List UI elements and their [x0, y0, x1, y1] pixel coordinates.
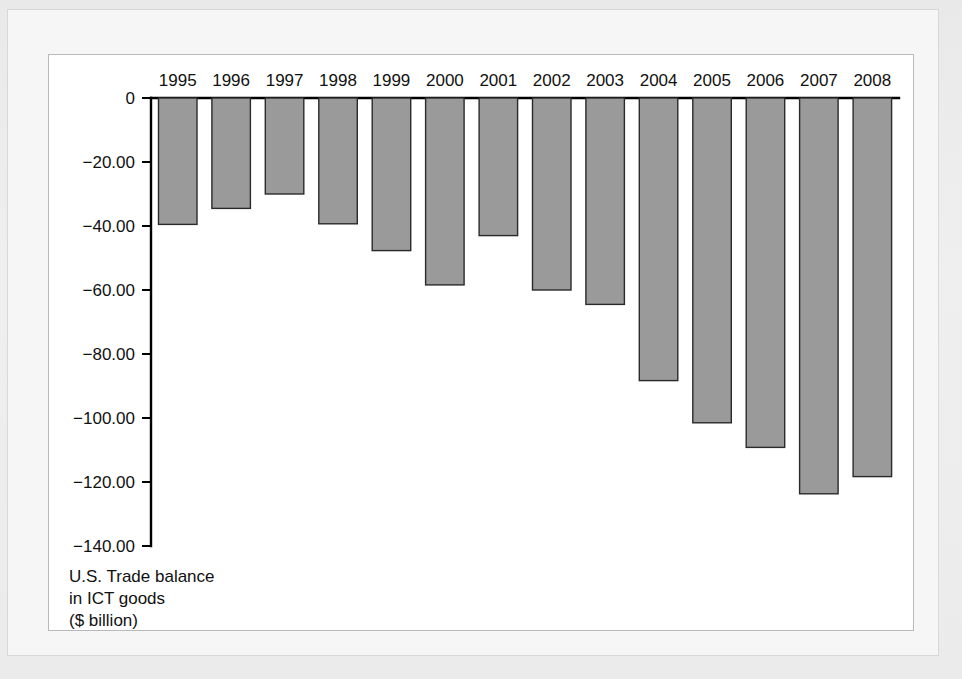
y-axis-tick-label: −60.00: [83, 281, 135, 300]
bar-chart: 0−20.00−40.00−60.00−80.00−100.00−120.00−…: [49, 55, 915, 632]
y-axis-tick-label: −20.00: [83, 153, 135, 172]
figure-frame: 0−20.00−40.00−60.00−80.00−100.00−120.00−…: [48, 54, 914, 631]
x-axis-year-labels: 1995199619971998199920002001200220032004…: [159, 71, 891, 90]
x-axis-year-label: 1999: [372, 71, 410, 90]
x-axis-year-label: 2004: [640, 71, 678, 90]
bar: [853, 98, 892, 477]
bar: [159, 98, 198, 224]
bar: [586, 98, 625, 304]
x-axis-year-label: 2003: [586, 71, 624, 90]
bar: [800, 98, 839, 494]
y-axis-tick-labels: 0−20.00−40.00−60.00−80.00−100.00−120.00−…: [73, 89, 135, 556]
caption-line: in ICT goods: [69, 589, 165, 608]
bar: [639, 98, 678, 381]
bar: [265, 98, 304, 194]
x-axis-year-label: 2007: [800, 71, 838, 90]
y-axis-tick-marks: [142, 98, 151, 546]
x-axis-year-label: 2008: [853, 71, 891, 90]
y-axis-tick-label: −80.00: [83, 345, 135, 364]
caption-line: ($ billion): [69, 611, 138, 630]
chart-svg: 0−20.00−40.00−60.00−80.00−100.00−120.00−…: [49, 55, 915, 632]
chart-caption: U.S. Trade balancein ICT goods($ billion…: [69, 567, 215, 630]
bar: [533, 98, 572, 290]
bar: [426, 98, 465, 285]
x-axis-year-label: 1998: [319, 71, 357, 90]
bar: [372, 98, 411, 251]
bar: [212, 98, 251, 208]
x-axis-year-label: 1996: [212, 71, 250, 90]
x-axis-year-label: 2000: [426, 71, 464, 90]
y-axis-tick-label: −120.00: [73, 473, 135, 492]
x-axis-year-label: 2005: [693, 71, 731, 90]
x-axis-year-label: 1997: [266, 71, 304, 90]
scanned-page: 0−20.00−40.00−60.00−80.00−100.00−120.00−…: [0, 0, 962, 679]
y-axis-tick-label: 0: [126, 89, 135, 108]
x-axis-year-label: 2006: [746, 71, 784, 90]
x-axis-year-label: 1995: [159, 71, 197, 90]
y-axis-tick-label: −100.00: [73, 409, 135, 428]
bar: [746, 98, 785, 447]
y-axis-tick-label: −40.00: [83, 217, 135, 236]
figure-mat: 0−20.00−40.00−60.00−80.00−100.00−120.00−…: [8, 10, 938, 655]
bar: [479, 98, 517, 236]
y-axis-tick-label: −140.00: [73, 537, 135, 556]
bar: [693, 98, 732, 423]
caption-line: U.S. Trade balance: [69, 567, 215, 586]
x-axis-year-label: 2002: [533, 71, 571, 90]
x-axis-year-label: 2001: [479, 71, 517, 90]
bar-series: [159, 98, 892, 494]
bar: [319, 98, 358, 224]
